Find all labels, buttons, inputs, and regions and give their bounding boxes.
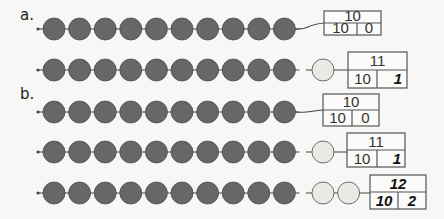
total-value: 10 [343,93,360,110]
place-value-box: 12102 [370,175,426,209]
dark-bead [120,59,142,81]
dark-bead [120,182,142,204]
dark-bead [43,59,65,81]
dark-bead [145,101,167,123]
ones-value: 2 [407,192,417,209]
dark-bead [273,18,295,40]
dark-bead [273,141,295,163]
dark-bead [69,141,91,163]
dark-bead [145,182,167,204]
dark-bead [197,101,219,123]
dark-bead [248,18,270,40]
bead-row: 10100 [36,93,379,126]
dark-bead [145,141,167,163]
string-end [36,27,39,30]
dark-bead [120,18,142,40]
dark-bead [171,18,193,40]
place-value-box: 10100 [323,93,379,126]
light-bead [312,141,334,163]
dark-bead [145,18,167,40]
place-value-box: 11101 [348,52,407,88]
dark-bead [273,59,295,81]
section-b: b.101001110112102 [20,85,426,209]
place-value-box: 11101 [347,133,405,167]
tens-value: 10 [329,109,346,126]
total-value: 12 [390,175,407,192]
dark-bead [94,182,116,204]
dark-bead [248,141,270,163]
tens-value: 10 [354,150,371,167]
bead-row: 10100 [36,7,381,40]
dark-bead [43,182,65,204]
dark-bead [69,182,91,204]
section-a: a.1010011101 [20,6,407,88]
dark-bead [273,101,295,123]
ones-value: 0 [365,19,373,36]
dark-bead [69,59,91,81]
string-end [36,150,39,153]
tens-value: 10 [354,70,371,87]
section-label: a. [20,6,34,24]
dark-bead [222,141,244,163]
dark-bead [222,18,244,40]
dark-bead [120,101,142,123]
string [295,110,323,112]
string-end [36,68,39,71]
dark-bead [248,101,270,123]
dark-bead [94,59,116,81]
bead-string-diagram: a.1010011101b.101001110112102 [0,0,444,219]
dark-bead [171,182,193,204]
dark-bead [171,59,193,81]
dark-bead [145,59,167,81]
dark-bead [69,101,91,123]
bead-row: 11101 [36,133,405,167]
light-bead [312,59,334,81]
dark-bead [248,182,270,204]
dark-bead [222,182,244,204]
dark-bead [120,141,142,163]
total-value: 11 [370,52,386,69]
section-label: b. [20,85,34,103]
string-end [36,191,39,194]
ones-value: 0 [361,109,369,126]
dark-bead [43,101,65,123]
dark-bead [43,141,65,163]
dark-bead [222,101,244,123]
string [295,23,324,29]
dark-bead [222,59,244,81]
tens-value: 10 [376,192,393,209]
light-bead [312,182,334,204]
dark-bead [94,141,116,163]
dark-bead [171,141,193,163]
bead-row: 12102 [36,175,426,209]
dark-bead [248,59,270,81]
dark-bead [43,18,65,40]
dark-bead [197,59,219,81]
dark-bead [197,182,219,204]
light-bead [338,182,360,204]
dark-bead [171,101,193,123]
dark-bead [69,18,91,40]
string-end [36,110,39,113]
place-value-box: 10100 [324,7,381,36]
ones-value: 1 [393,150,401,167]
dark-bead [273,182,295,204]
dark-bead [197,18,219,40]
dark-bead [94,101,116,123]
dark-bead [197,141,219,163]
total-value: 11 [368,133,384,150]
tens-value: 10 [332,19,349,36]
bead-row: 11101 [36,52,407,88]
dark-bead [94,18,116,40]
ones-value: 1 [394,70,402,87]
